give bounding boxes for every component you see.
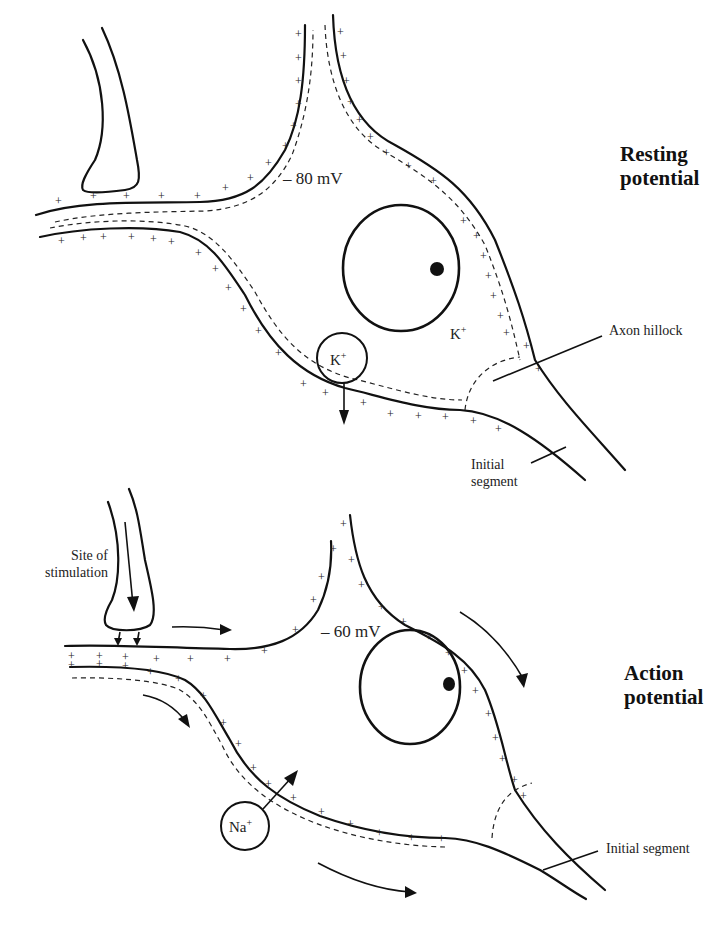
propagation-arrowhead-3: [516, 673, 528, 688]
svg-text:+: +: [100, 230, 107, 244]
svg-text:+: +: [224, 652, 231, 666]
k-channel-label: K+: [330, 350, 346, 369]
svg-text:+: +: [460, 214, 467, 228]
svg-text:+: +: [80, 231, 87, 245]
svg-text:+: +: [330, 542, 337, 556]
svg-text:+: +: [445, 646, 452, 660]
svg-text:+: +: [310, 593, 317, 607]
svg-text:+: +: [442, 410, 449, 424]
svg-text:+: +: [58, 234, 65, 248]
k-channel-charge: +: [341, 350, 347, 361]
resting-potential-title: Resting potential: [620, 142, 699, 190]
svg-text:+: +: [295, 74, 302, 88]
k-channel-symbol: K: [330, 352, 341, 368]
initial-segment-line1: Initial: [471, 456, 518, 473]
svg-text:+: +: [347, 817, 354, 831]
site-line2: stimulation: [20, 564, 108, 581]
svg-text:+: +: [348, 553, 355, 567]
membrane-upper-left: [36, 25, 305, 215]
svg-text:+: +: [265, 777, 272, 791]
na-channel-symbol: Na: [229, 819, 247, 835]
svg-text:+: +: [295, 27, 302, 41]
svg-text:+: +: [150, 232, 157, 246]
nucleolus: [430, 262, 444, 276]
svg-text:+: +: [250, 761, 257, 775]
resting-title-line1: Resting: [620, 142, 699, 166]
svg-text:+: +: [300, 377, 307, 391]
resting-panel: ++++++++ ++++++++++++++++++++ ++++++ +++…: [36, 15, 625, 480]
svg-text:+: +: [356, 113, 363, 127]
svg-text:+: +: [485, 269, 492, 283]
svg-text:+: +: [425, 630, 432, 644]
svg-text:+: +: [168, 235, 175, 249]
membrane-lower: [40, 228, 585, 480]
svg-text:+: +: [485, 707, 492, 721]
svg-text:+: +: [128, 230, 135, 244]
presynaptic-terminal: [82, 28, 139, 192]
site-line1: Site of: [20, 547, 108, 564]
membrane-lower-action: [70, 667, 586, 899]
svg-text:+: +: [473, 229, 480, 243]
na-channel-charge: +: [247, 817, 253, 828]
svg-text:+: +: [225, 281, 232, 295]
propagation-arrow-1: [172, 627, 225, 630]
svg-text:+: +: [187, 652, 194, 666]
svg-text:+: +: [222, 181, 229, 195]
svg-text:+: +: [358, 578, 365, 592]
svg-text:+: +: [523, 339, 530, 353]
axon-hillock-boundary: [465, 357, 520, 410]
resting-voltage-label: – 80 mV: [283, 169, 343, 189]
svg-text:+: +: [261, 644, 268, 658]
svg-text:+: +: [265, 156, 272, 170]
membrane-inner-lower-action: [72, 678, 445, 847]
svg-text:+: +: [337, 25, 344, 39]
release-arrowhead-right: [133, 638, 141, 646]
svg-text:+: +: [461, 664, 468, 678]
svg-text:+: +: [492, 731, 499, 745]
svg-text:+: +: [400, 615, 407, 629]
svg-text:+: +: [275, 346, 282, 360]
k-ion-charge: +: [461, 324, 467, 335]
stimulation-arrowhead: [127, 596, 139, 612]
svg-text:+: +: [340, 49, 347, 63]
svg-text:+: +: [322, 386, 329, 400]
svg-text:+: +: [295, 97, 302, 111]
svg-text:+: +: [295, 51, 302, 65]
propagation-arrowhead-4: [405, 886, 417, 898]
propagation-arrow-2: [143, 695, 186, 722]
svg-text:+: +: [430, 174, 437, 188]
svg-text:+: +: [497, 309, 504, 323]
k-ion-inside-label: K+: [450, 324, 466, 343]
svg-text:+: +: [96, 657, 103, 671]
svg-text:+: +: [194, 189, 201, 203]
svg-text:+: +: [292, 623, 299, 637]
initial-segment-label-resting: Initial segment: [471, 456, 518, 490]
svg-text:+: +: [378, 600, 385, 614]
svg-text:+: +: [470, 414, 477, 428]
resting-title-line2: potential: [620, 166, 699, 190]
neuron-diagram: ++++++++ ++++++++++++++++++++ ++++++ +++…: [0, 0, 725, 938]
svg-text:+: +: [520, 789, 527, 803]
svg-text:+: +: [240, 302, 247, 316]
svg-text:+: +: [318, 570, 325, 584]
svg-text:+: +: [376, 826, 383, 840]
svg-text:+: +: [347, 95, 354, 109]
action-potential-title: Action potential: [624, 661, 703, 709]
svg-text:+: +: [282, 139, 289, 153]
svg-text:+: +: [153, 652, 160, 666]
svg-text:+: +: [383, 146, 390, 160]
initial-segment-line2: segment: [471, 473, 518, 490]
charge-symbols-action: +++++++ ++++++++++++++++ ++++ ++++++++++…: [68, 517, 527, 846]
nucleolus-action: [443, 677, 455, 691]
action-title-line1: Action: [624, 661, 703, 685]
svg-text:+: +: [438, 832, 445, 846]
svg-text:+: +: [367, 130, 374, 144]
svg-text:+: +: [535, 362, 542, 376]
svg-text:+: +: [490, 289, 497, 303]
propagation-arrow-3: [460, 612, 524, 680]
svg-text:+: +: [247, 171, 254, 185]
svg-text:+: +: [212, 262, 219, 276]
svg-text:+: +: [235, 737, 242, 751]
site-of-stimulation-label: Site of stimulation: [20, 547, 108, 581]
svg-text:+: +: [255, 324, 262, 338]
